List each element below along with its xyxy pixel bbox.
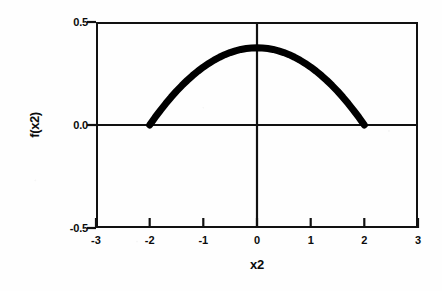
x-tick-label-3: 0	[254, 234, 260, 246]
y-tick-label-2: -0.5	[70, 222, 88, 234]
x-tick-marks	[96, 218, 418, 228]
plot-canvas	[96, 22, 418, 228]
x-tick-label-5: 2	[361, 234, 367, 246]
x-tick-label-1: -2	[145, 234, 155, 246]
x-tick-label-0: -3	[91, 234, 101, 246]
y-axis-title: f(x2)	[27, 112, 42, 137]
chart-figure: 0.5 0.0 -0.5 -3 -2 -1 0 1 2 3 x2 f(x2)	[0, 0, 442, 291]
x-tick-label-4: 1	[308, 234, 314, 246]
y-tick-label-1: 0.0	[73, 119, 88, 131]
x-axis-title: x2	[250, 257, 264, 272]
y-tick-marks	[87, 22, 96, 228]
y-tick-label-0: 0.5	[73, 16, 88, 28]
x-tick-label-6: 3	[415, 234, 421, 246]
x-tick-label-2: -1	[198, 234, 208, 246]
